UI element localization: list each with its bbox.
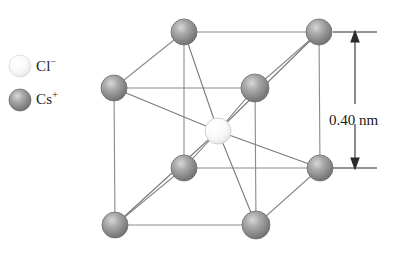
bond-center-back-top-left (184, 32, 218, 131)
cs-sphere-front-bottom-right (242, 211, 270, 239)
dimension-arrowhead-up (351, 31, 359, 42)
bond-center-back-bottom-right (218, 131, 320, 168)
chloride-atom-center (205, 118, 231, 144)
legend-cs-sphere-icon (9, 89, 31, 111)
cscl-unit-cell-figure: Cl− Cs+ 0.40 nm (0, 0, 410, 253)
dimension-arrow (333, 31, 377, 169)
bond-center-front-bottom-right (218, 131, 256, 225)
edge-front-left (114, 88, 115, 225)
cs-sphere-back-top-right (306, 19, 332, 45)
bond-center-front-top-left (114, 88, 218, 131)
legend-item-chloride: Cl− (36, 56, 56, 75)
legend-spheres (9, 55, 31, 111)
cs-sphere-back-bottom-left (171, 155, 197, 181)
cs-sphere-back-bottom-right (307, 155, 333, 181)
bond-center-front-bottom-left (115, 131, 218, 225)
edge-connect-top-left (114, 32, 184, 88)
legend-charge-cs: + (52, 89, 58, 100)
cs-sphere-front-top-right (241, 74, 269, 102)
edge-back-right (319, 32, 320, 168)
cs-sphere-front-top-left (101, 75, 127, 101)
dimension-label: 0.40 nm (329, 112, 378, 129)
bond-center-back-top-right (218, 32, 319, 131)
dimension-arrowhead-down (351, 158, 359, 169)
legend-label-cs-text: Cs (36, 91, 52, 107)
cs-sphere-front-bottom-left (102, 212, 128, 238)
legend-label-cl-text: Cl (36, 58, 51, 74)
cl-sphere (205, 118, 231, 144)
cs-sphere-back-top-left (171, 19, 197, 45)
edge-front-right (255, 88, 256, 225)
legend-cl-sphere-icon (9, 55, 31, 77)
edge-connect-bottom-left (115, 168, 184, 225)
legend-charge-cl: − (51, 56, 57, 67)
legend-item-cesium: Cs+ (36, 89, 58, 108)
